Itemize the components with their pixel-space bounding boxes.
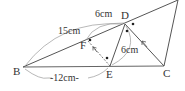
point-label-D: D xyxy=(121,9,129,21)
point-label-E: E xyxy=(106,68,113,80)
point-label-C: C xyxy=(163,67,170,79)
arrow-icon-CD xyxy=(142,41,147,47)
segment-CA xyxy=(164,0,178,66)
measure-FD: 6cm xyxy=(95,8,112,19)
arrow-icon-EF xyxy=(93,47,97,52)
measure-BE: -12cm- xyxy=(50,72,79,83)
point-label-F: F xyxy=(80,39,86,51)
angle-dot-D2 xyxy=(126,30,129,33)
angle-dot-E xyxy=(106,57,109,60)
segment-BC xyxy=(23,66,164,67)
point-label-B: B xyxy=(13,65,20,77)
geometry-diagram: B C D E F 6cm 15cm 6cm -12cm- xyxy=(0,0,185,91)
measure-BD: 15cm xyxy=(58,25,80,36)
measure-DE: 6cm xyxy=(121,44,138,55)
segment-EF-dashed xyxy=(88,41,110,66)
angle-dot-D1 xyxy=(132,23,135,26)
angle-dot-F xyxy=(89,39,92,42)
